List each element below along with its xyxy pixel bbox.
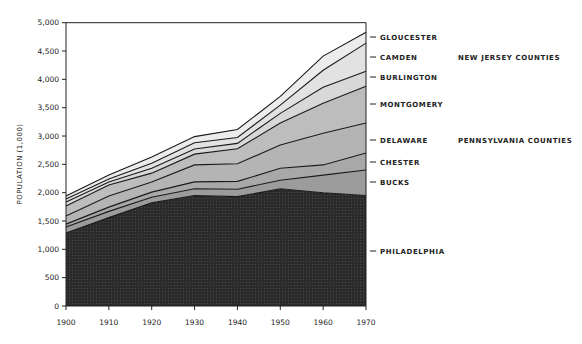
- series-label-burlington: BURLINGTON: [380, 74, 438, 82]
- x-tick-label: 1960: [314, 318, 333, 327]
- x-tick-label: 1930: [185, 318, 204, 327]
- series-label-chester: CHESTER: [380, 159, 420, 167]
- y-tick-label: 4,500: [38, 47, 60, 56]
- y-tick-label: 2,500: [38, 160, 60, 169]
- stacked-area-chart: 05001,0001,5002,0002,5003,0003,5004,0004…: [0, 0, 582, 344]
- x-tick-label: 1970: [356, 318, 375, 327]
- x-tick-label: 1920: [142, 318, 161, 327]
- y-tick-label: 1,500: [38, 217, 60, 226]
- area-layers: [66, 32, 366, 306]
- y-tick-label: 0: [54, 302, 59, 311]
- x-tick-label: 1910: [99, 318, 118, 327]
- y-tick-label: 3,000: [38, 132, 60, 141]
- x-tick-label: 1900: [56, 318, 75, 327]
- series-labels: PHILADELPHIABUCKSCHESTERDELAWAREMONTGOME…: [370, 34, 445, 256]
- y-axis-label: POPULATION (1,000): [16, 123, 24, 204]
- x-tick-label: 1950: [271, 318, 290, 327]
- series-label-montgomery: MONTGOMERY: [380, 101, 443, 109]
- series-label-gloucester: GLOUCESTER: [380, 34, 438, 42]
- y-tick-label: 2,000: [38, 188, 60, 197]
- group-label-new-jersey: NEW JERSEY COUNTIES: [458, 54, 560, 62]
- x-tick-label: 1940: [228, 318, 247, 327]
- series-label-camden: CAMDEN: [380, 54, 418, 62]
- series-label-bucks: BUCKS: [380, 179, 410, 187]
- y-tick-label: 500: [45, 273, 60, 282]
- series-label-philadelphia: PHILADELPHIA: [380, 248, 445, 256]
- series-label-delaware: DELAWARE: [380, 137, 428, 145]
- y-tick-label: 4,000: [38, 75, 60, 84]
- y-tick-label: 5,000: [38, 18, 60, 27]
- y-tick-label: 1,000: [38, 245, 60, 254]
- y-tick-label: 3,500: [38, 103, 60, 112]
- group-label-pennsylvania: PENNSYLVANIA COUNTIES: [458, 137, 572, 145]
